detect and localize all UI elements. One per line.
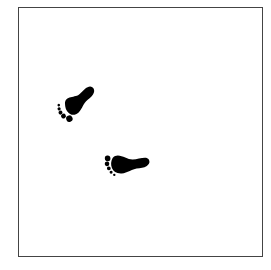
footprint-icon [97,143,157,183]
footprint-icon [53,80,103,130]
image-frame: Two black footprints inside a square fra… [18,7,263,257]
